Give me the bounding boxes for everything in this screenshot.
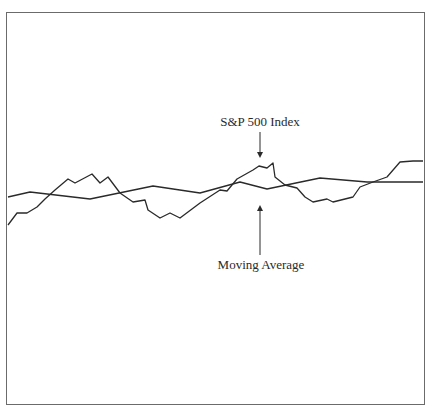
sp500-label: S&P 500 Index [220,114,300,130]
chart: S&P 500 Index Moving Average [0,0,433,413]
plot-area [0,0,433,413]
moving-average-label: Moving Average [218,257,305,273]
moving-average-line [8,178,423,199]
sp500-line [8,161,423,225]
